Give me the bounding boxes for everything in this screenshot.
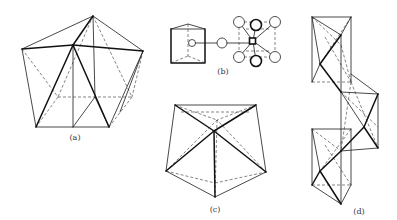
atom [270,52,281,63]
panel-b: (b) [171,17,281,77]
octahedron-top [312,17,351,92]
panel-a: (a) [22,16,143,142]
panel-a-hidden-edges [22,16,143,127]
bridging-atom [217,38,227,48]
atom [251,20,262,31]
central-atom [189,40,196,47]
panel-a-front-edges [22,16,143,127]
atom [234,17,245,28]
octahedron-bottom [312,129,351,204]
panel-c-hidden-edges [166,105,266,197]
panel-c-label: (c) [210,205,221,214]
panel-c: (c) [166,105,266,214]
panel-b-label: (b) [217,67,228,76]
atom [251,56,262,67]
panel-d-label: (d) [353,207,364,216]
cubic-cluster [234,17,281,67]
octahedron-middle [341,74,378,151]
panel-d: (d) [312,17,378,216]
metal-center [250,38,256,44]
panel-a-edges [22,16,143,127]
atom [270,17,281,28]
atom [234,52,245,63]
trigonal-prism [171,24,205,63]
panel-a-label: (a) [69,133,80,142]
figure-canvas: (a) [0,0,397,220]
